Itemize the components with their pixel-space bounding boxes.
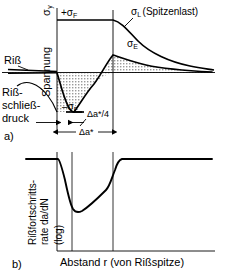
panel-b: Rißfortschritts- rate da/dN (log) Abstan… xyxy=(12,152,215,270)
label-crack-closure-line1: Riß- xyxy=(2,86,23,98)
figure-svg: Spannung σy +σF –σF σL(Spitzenlast) σE R… xyxy=(0,0,228,279)
label-crack-closure-line3: druck xyxy=(2,112,29,124)
label-crack-closure-line2: schließ- xyxy=(2,99,41,111)
panel-a-label: a) xyxy=(4,130,14,142)
panel-a-ysymbol: σy xyxy=(40,5,54,16)
peak-load-leader xyxy=(124,18,133,27)
label-yield-tension: +σF xyxy=(61,7,77,19)
label-delta-a-full: Δa* xyxy=(79,127,94,137)
label-delta-a-quarter: Δa*/4 xyxy=(87,109,109,119)
panel-b-ylabel-line2: rate da/dN xyxy=(39,198,50,245)
panel-b-ylabel-line1: Rißfortschritts- xyxy=(27,180,38,245)
panel-a: Spannung σy +σF –σF σL(Spitzenlast) σE R… xyxy=(2,5,215,142)
panel-b-xlabel: Abstand r (von Rißspitze) xyxy=(60,256,184,268)
label-peak-load: σL(Spitzenlast) xyxy=(131,6,198,18)
panel-b-label: b) xyxy=(12,258,22,270)
figure-root: Spannung σy +σF –σF σL(Spitzenlast) σE R… xyxy=(0,0,228,279)
curve-residual-rise xyxy=(74,55,212,112)
panel-a-ylabel-group: Spannung σy xyxy=(40,5,54,97)
panel-b-ylabel-line3: (log) xyxy=(53,225,64,245)
curve-crack-growth-rate xyxy=(26,159,212,212)
panel-a-ylabel: Spannung xyxy=(40,47,52,97)
label-crack: Riß xyxy=(4,54,21,66)
